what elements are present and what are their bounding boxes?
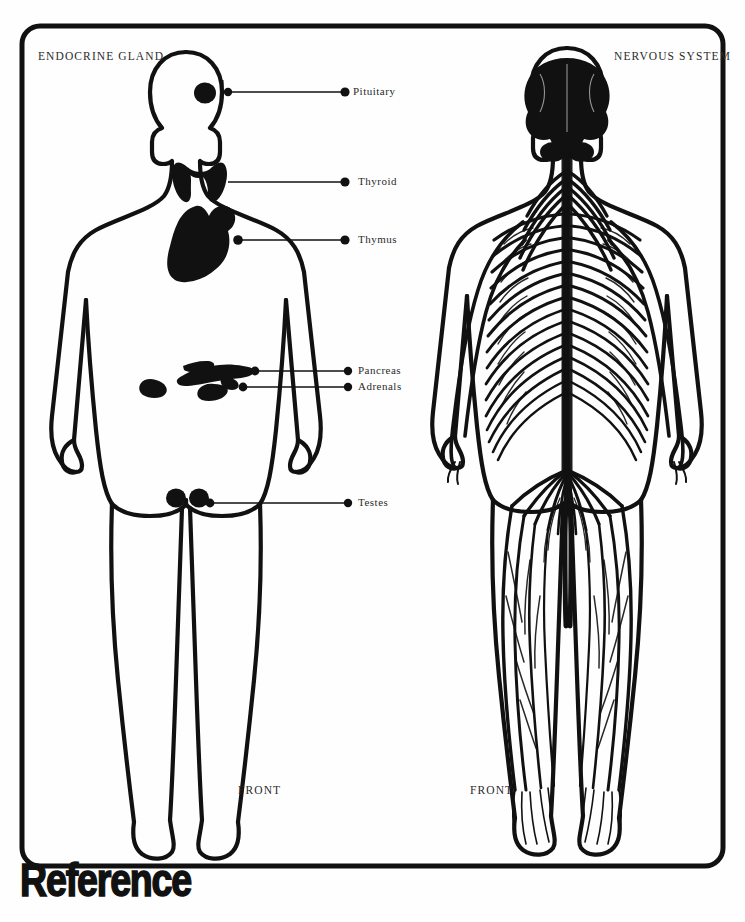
reference-wordmark: Reference xyxy=(20,856,191,903)
leader-lines xyxy=(210,80,348,503)
anatomy-illustration xyxy=(0,0,745,922)
organ-label-thymus: Thymus xyxy=(358,233,397,245)
bullet-thymus xyxy=(340,235,349,244)
organ-label-adrenals: Adrenals xyxy=(358,380,402,392)
view-label-endocrine: FRONT xyxy=(238,784,281,796)
organ-label-thyroid: Thyroid xyxy=(358,175,397,187)
intercostal-nerves-right xyxy=(571,214,648,460)
bullet-thyroid xyxy=(340,177,349,186)
panel-title-endocrine: ENDOCRINE GLAND xyxy=(38,50,164,62)
reference-page: ENDOCRINE GLAND NERVOUS SYSTEM Pituitary… xyxy=(0,0,745,922)
gland-pituitary xyxy=(194,83,216,104)
bullet-adrenals xyxy=(344,383,352,391)
gland-thymus xyxy=(167,206,235,282)
organ-label-pituitary: Pituitary xyxy=(353,85,395,97)
nervous-figure xyxy=(432,48,702,855)
bullet-pancreas xyxy=(344,367,352,375)
bullet-testes xyxy=(344,499,352,507)
organ-label-pancreas: Pancreas xyxy=(358,364,401,376)
bullet-pituitary xyxy=(340,87,349,96)
organ-label-testes: Testes xyxy=(358,496,388,508)
leader-bullets xyxy=(340,87,352,507)
endocrine-body-outline xyxy=(51,52,186,472)
panel-title-nervous: NERVOUS SYSTEM xyxy=(614,50,731,62)
view-label-nervous: FRONT xyxy=(470,784,513,796)
endocrine-glands xyxy=(139,83,259,508)
page-frame xyxy=(22,26,723,866)
intercostal-nerves-left xyxy=(486,214,563,460)
